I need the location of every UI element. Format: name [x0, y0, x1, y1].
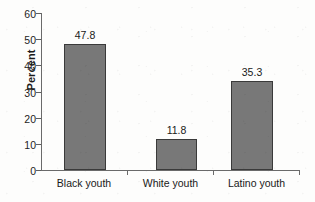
x-axis-line	[41, 170, 300, 171]
y-axis-tick-labels: 60 50 40 30 20 10 0	[14, 0, 36, 202]
x-axis-separator-tick	[213, 171, 214, 175]
y-tick-label: 50	[14, 35, 36, 46]
y-axis-line	[41, 13, 42, 171]
y-tick-label: 30	[14, 88, 36, 99]
bar-value-label-latino-youth: 35.3	[231, 67, 273, 78]
y-tick-label: 10	[14, 140, 36, 151]
x-axis-separator-tick	[127, 171, 128, 175]
x-axis-category-label-black-youth: Black youth	[41, 178, 127, 189]
x-axis-category-label-white-youth: White youth	[128, 178, 213, 189]
x-axis-category-label-latino-youth: Latino youth	[214, 178, 299, 189]
x-axis-separator-tick	[299, 171, 300, 175]
y-tick-label: 20	[14, 114, 36, 125]
bar-value-label-black-youth: 47.8	[64, 30, 106, 41]
bar-white-youth	[156, 139, 197, 170]
bar-latino-youth	[231, 81, 273, 170]
y-tick-label: 60	[14, 9, 36, 20]
bar-black-youth	[64, 44, 106, 170]
bar-value-label-white-youth: 11.8	[156, 125, 197, 136]
bar-chart-figure: Percent 60 50 40 30 20 10 0 47.8 11.8 35…	[0, 0, 315, 202]
y-tick-label: 40	[14, 61, 36, 72]
y-tick-label: 0	[14, 166, 36, 177]
